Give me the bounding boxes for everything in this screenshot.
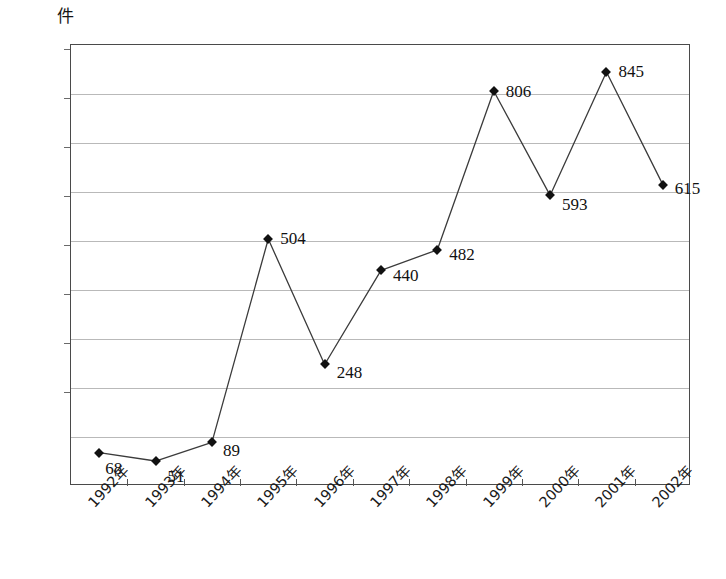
data-point-label: 615 [675, 179, 701, 199]
data-point-label: 593 [562, 195, 588, 215]
data-point-label: 248 [337, 363, 363, 383]
x-tick-mark [353, 479, 354, 486]
data-point-label: 806 [506, 82, 532, 102]
x-tick-mark [466, 479, 467, 486]
x-tick-mark [522, 479, 523, 486]
x-tick-mark [578, 479, 579, 486]
y-axis: 9008007006005004003002001000 [0, 0, 64, 579]
x-tick-mark [635, 479, 636, 486]
x-tick-mark [240, 479, 241, 486]
x-tick-mark [184, 479, 185, 486]
data-point-label: 89 [223, 441, 240, 461]
x-tick-mark [409, 479, 410, 486]
x-tick-mark [127, 479, 128, 486]
data-point-label: 440 [393, 266, 419, 286]
data-point-label: 845 [618, 62, 644, 82]
scan-artifact [0, 553, 726, 579]
data-point-label: 504 [280, 229, 306, 249]
x-tick-mark [296, 479, 297, 486]
data-point-label: 482 [449, 245, 475, 265]
line-chart: 件 9008007006005004003002001000 685189504… [0, 0, 726, 579]
plot-area: 685189504248440482806593845615 [70, 44, 690, 485]
